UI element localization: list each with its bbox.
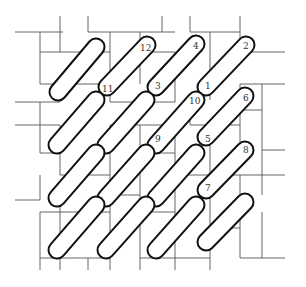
endpoint-label: 10 bbox=[189, 96, 201, 106]
endpoint-label: 4 bbox=[193, 41, 199, 51]
endpoint-label: 5 bbox=[205, 134, 211, 144]
endpoint-label: 2 bbox=[243, 41, 249, 51]
endpoint-label: 8 bbox=[243, 145, 249, 155]
tile-diagram: 123456789101112 bbox=[0, 0, 306, 287]
endpoint-label: 6 bbox=[243, 93, 249, 103]
endpoint-label: 7 bbox=[205, 183, 211, 193]
pill-tiles bbox=[45, 32, 258, 262]
diagram-canvas: 123456789101112 bbox=[0, 0, 306, 287]
endpoint-label: 3 bbox=[155, 81, 161, 91]
endpoint-label: 11 bbox=[102, 84, 113, 94]
endpoint-label: 12 bbox=[140, 43, 151, 53]
endpoint-label: 9 bbox=[155, 134, 161, 144]
endpoint-label: 1 bbox=[205, 81, 211, 91]
